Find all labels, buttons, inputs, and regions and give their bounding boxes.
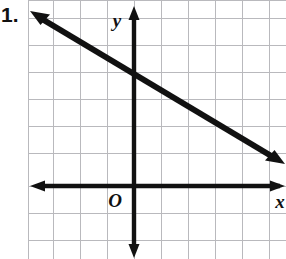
y-axis-arrow-up-icon — [129, 6, 140, 20]
plotted-line-segment — [42, 19, 273, 157]
origin-label: O — [108, 190, 122, 211]
y-axis — [129, 6, 140, 258]
y-axis-label: y — [111, 10, 122, 31]
x-axis-label: x — [274, 191, 285, 212]
grid-lines — [28, 0, 286, 259]
x-axis-arrow-left-icon — [30, 181, 45, 192]
y-axis-arrow-down-icon — [129, 244, 140, 258]
worksheet-graph-screenshot: 1. — [0, 0, 286, 259]
x-axis-arrow-right-icon — [270, 181, 285, 192]
plotted-line — [30, 11, 285, 164]
x-axis — [30, 181, 285, 192]
problem-number-label: 1. — [1, 4, 19, 25]
graph-svg: y x O — [28, 0, 286, 259]
coordinate-graph: y x O — [28, 0, 286, 259]
